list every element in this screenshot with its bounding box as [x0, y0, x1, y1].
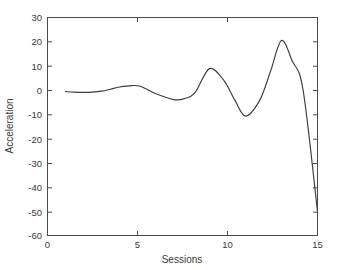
chart-screenshot: 30 20 10 0 -10 -20 -30 -40 -50 -60 0 5 1…: [0, 0, 338, 270]
y-tick-label: 30: [31, 12, 42, 23]
y-tick-label: 10: [31, 61, 42, 72]
x-tick-label: 0: [45, 239, 50, 250]
y-tick-label: 20: [31, 36, 42, 47]
y-axis-title: Acceleration: [4, 98, 15, 153]
y-tick-label: -10: [28, 109, 42, 120]
y-tick-label: 0: [37, 85, 42, 96]
y-tick-label: -60: [28, 230, 42, 241]
acceleration-line-chart: 30 20 10 0 -10 -20 -30 -40 -50 -60 0 5 1…: [0, 0, 338, 270]
chart-background: [0, 0, 338, 270]
y-tick-label: -20: [28, 134, 42, 145]
x-axis-title: Sessions: [162, 254, 203, 265]
y-tick-label: -30: [28, 158, 42, 169]
x-tick-label: 10: [222, 239, 233, 250]
y-tick-label: -40: [28, 182, 42, 193]
y-tick-label: -50: [28, 207, 42, 218]
x-tick-label: 15: [312, 239, 323, 250]
x-tick-label: 5: [135, 239, 140, 250]
